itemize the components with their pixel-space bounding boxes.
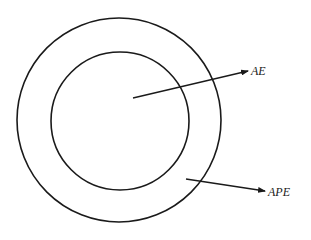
ae-label: AE: [251, 65, 266, 77]
inner-circle: [51, 52, 189, 190]
outer-circle: [17, 18, 221, 222]
ape-label: APE: [268, 186, 290, 198]
concentric-circles-diagram: [0, 0, 311, 240]
ae-arrow: [133, 71, 248, 98]
